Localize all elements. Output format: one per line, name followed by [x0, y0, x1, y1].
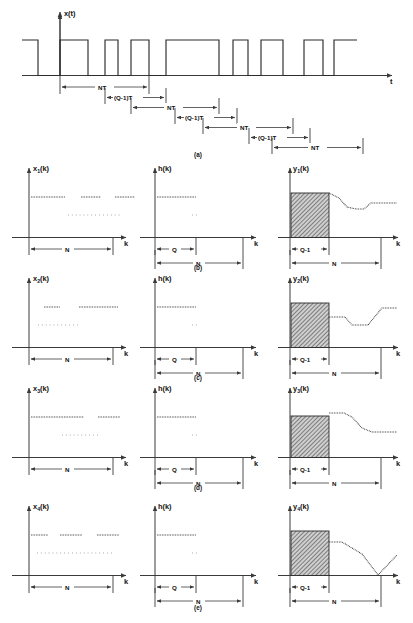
x1-x-label: k: [124, 239, 129, 248]
caption-c: (c): [194, 374, 202, 382]
he-x-label: k: [254, 577, 259, 586]
x3-plot: x3(k) k N: [12, 384, 129, 475]
hb-y-label: h(k): [158, 164, 172, 173]
caption-d: (d): [194, 484, 202, 492]
panel-a-dim-1: NT: [60, 76, 149, 94]
x1-plot: x1(k) k N: [12, 164, 135, 255]
y4-plot: y4(k) k Q-1 N: [278, 502, 401, 607]
figure-root: x(t) t NT (Q-1)T NT: [0, 0, 413, 623]
x2-plot: x2(k) k N: [12, 274, 129, 365]
panel-a-dim-label-NT-2: NT: [167, 104, 175, 111]
y1-hatched-block: [291, 193, 329, 238]
panel-a-dim-2: (Q-1)T: [105, 88, 166, 104]
y1-x-label: k: [396, 239, 401, 248]
he-span-q: Q: [172, 584, 177, 591]
figure-svg: x(t) t NT (Q-1)T NT: [0, 0, 413, 623]
panel-a-dim-6: (Q-1)T: [249, 128, 310, 144]
x3-x-label: k: [124, 459, 129, 468]
y3-hatched-block: [291, 416, 329, 458]
panel-a-dim-4: (Q-1)T: [175, 108, 237, 124]
x4-y-label: x4(k): [33, 502, 50, 512]
caption-b: (b): [194, 264, 202, 272]
y4-x-label: k: [396, 577, 401, 586]
y3-span-n: N: [332, 480, 337, 487]
y1-trace: [329, 193, 397, 209]
panel-a-dim-label-NT-3: NT: [240, 124, 248, 131]
row-c: x2(k) k N h(k) k Q N: [12, 274, 401, 382]
y2-plot: y2(k) k Q-1 N: [278, 274, 401, 379]
caption-e: (e): [194, 604, 202, 612]
y2-hatched-block: [291, 303, 329, 348]
row-e: x4(k) k N h(k) k Q: [12, 502, 401, 612]
x2-span-label: N: [65, 356, 70, 363]
y3-plot: y3(k) k Q-1 N: [278, 384, 401, 489]
x4-plot: x4(k) k N: [12, 502, 129, 593]
hb-x-label: k: [254, 239, 259, 248]
y3-y-label: y3(k): [293, 384, 310, 394]
hb-span-q: Q: [172, 246, 177, 253]
panel-a-x-label: t: [390, 77, 393, 86]
row-b: x1(k) k N h(k) k Q: [12, 164, 401, 272]
hd-x-label: k: [254, 459, 259, 468]
row-d: x3(k) k N h(k) k Q N: [12, 384, 401, 492]
hd-y-label: h(k): [158, 384, 172, 393]
y1-span-q1: Q-1: [300, 246, 311, 253]
h-plot-b: h(k) k Q N: [140, 164, 259, 269]
y2-trace: [329, 308, 397, 325]
y4-hatched-block: [291, 531, 329, 576]
x1-span-label: N: [65, 246, 70, 253]
y2-x-label: k: [396, 349, 401, 358]
y2-span-n: N: [332, 370, 337, 377]
x3-y-label: x3(k): [33, 384, 50, 394]
y3-span-q1: Q-1: [300, 466, 311, 473]
x4-span-label: N: [65, 584, 70, 591]
x3-span-label: N: [65, 466, 70, 473]
he-y-label: h(k): [158, 502, 172, 511]
y2-span-q1: Q-1: [300, 356, 311, 363]
y4-trace: [329, 542, 397, 575]
y4-span-n: N: [332, 598, 337, 605]
y3-x-label: k: [396, 459, 401, 468]
x4-x-label: k: [124, 577, 129, 586]
panel-a-dim-label-Q1T-2: (Q-1)T: [185, 114, 203, 121]
y4-span-q1: Q-1: [300, 584, 311, 591]
x2-x-label: k: [124, 349, 129, 358]
y1-plot: y1(k) k Q-1 N: [278, 164, 401, 269]
panel-a-pulse-train: [22, 40, 357, 76]
panel-a-y-label: x(t): [64, 9, 76, 18]
hc-y-label: h(k): [158, 274, 172, 283]
x2-y-label: x2(k): [33, 274, 50, 284]
h-plot-d: h(k) k Q N: [140, 384, 259, 489]
hc-x-label: k: [254, 349, 259, 358]
hd-span-q: Q: [172, 466, 177, 473]
panel-a-dim-label-Q1T-3: (Q-1)T: [258, 134, 276, 141]
hc-span-q: Q: [172, 356, 177, 363]
panel-a: x(t) t NT (Q-1)T NT: [22, 9, 393, 159]
panel-a-dim-label-NT-4: NT: [311, 144, 319, 151]
panel-a-dim-label-Q1T-1: (Q-1)T: [114, 94, 132, 101]
y1-span-n: N: [332, 260, 337, 267]
y4-y-label: y4(k): [293, 502, 310, 512]
y3-trace: [329, 413, 397, 432]
x1-y-label: x1(k): [33, 164, 50, 174]
y1-y-label: y1(k): [293, 164, 310, 174]
caption-a: (a): [194, 151, 202, 159]
h-plot-e: h(k) k Q N: [140, 502, 259, 607]
h-plot-c: h(k) k Q N: [140, 274, 259, 379]
y2-y-label: y2(k): [293, 274, 310, 284]
panel-a-dim-5: NT: [203, 118, 293, 134]
